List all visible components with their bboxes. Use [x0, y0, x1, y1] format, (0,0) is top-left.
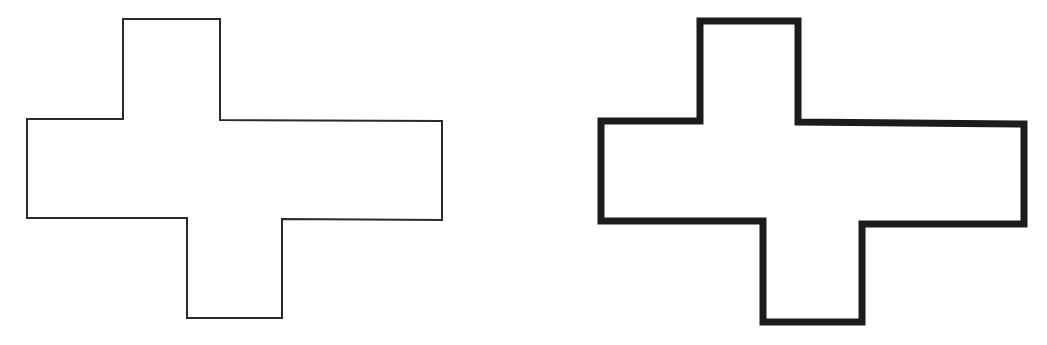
- canvas-background: [0, 0, 1047, 345]
- diagram-canvas: [0, 0, 1047, 345]
